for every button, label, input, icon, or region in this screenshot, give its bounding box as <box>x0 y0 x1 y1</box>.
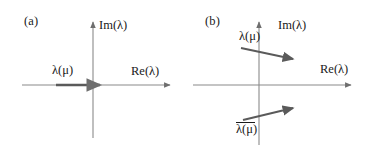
eigenvalue-label-b-upper: λ(μ) <box>239 30 260 43</box>
eigenvalue-arrow-b-lower <box>243 108 293 120</box>
real-axis-label-a: Re(λ) <box>131 65 159 78</box>
panel-tag-b: (b) <box>205 15 220 28</box>
eigenvalue-label-b-lower: λ(μ) <box>236 123 257 136</box>
imaginary-axis-label-a: Im(λ) <box>99 19 127 32</box>
overbar-icon <box>236 122 255 123</box>
imaginary-axis-label-b: Im(λ) <box>278 19 306 32</box>
eigenvalue-label-b-lower-text: λ(μ) <box>236 122 257 136</box>
eigenvalue-label-a: λ(μ) <box>52 64 73 77</box>
panel-tag-a: (a) <box>24 15 38 28</box>
conjugate-overbar-group: λ(μ) <box>236 123 257 136</box>
panel-b: (b) Im(λ) Re(λ) λ(μ) λ(μ) <box>183 0 366 168</box>
panel-a: (a) Im(λ) Re(λ) λ(μ) <box>0 0 183 168</box>
eigenvalue-diagram-figure: (a) Im(λ) Re(λ) λ(μ) (b) <box>0 0 366 168</box>
eigenvalue-arrow-b-upper <box>241 48 293 59</box>
real-axis-label-b: Re(λ) <box>320 63 348 76</box>
